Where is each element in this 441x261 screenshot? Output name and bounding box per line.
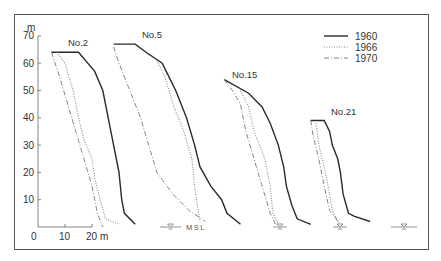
- msl-symbol-icon: [401, 224, 407, 229]
- profile-label-no15: No.15: [232, 69, 257, 80]
- profile-label-no2: No.2: [68, 37, 88, 48]
- y-tick-label: 50: [23, 85, 35, 96]
- y-tick-label: 20: [23, 167, 35, 178]
- series-1970: [224, 80, 275, 225]
- series-1970: [52, 52, 103, 227]
- series-1960: [224, 80, 310, 225]
- profile-no21: [311, 121, 370, 225]
- msl-symbol-icon: [168, 224, 174, 229]
- y-tick-label: 10: [23, 194, 35, 205]
- x-tick-label: 10: [59, 231, 71, 242]
- profile-no15: [224, 80, 310, 225]
- msl-label: MSL: [186, 223, 206, 232]
- y-tick-label: 40: [23, 112, 35, 123]
- msl-symbol-icon: [337, 224, 343, 229]
- series-1960: [311, 121, 370, 222]
- profile-label-no21: No.21: [331, 106, 356, 117]
- series-1966: [241, 91, 279, 225]
- profile-no5: [114, 44, 241, 224]
- series-1960: [52, 52, 136, 224]
- y-tick-label: 30: [23, 140, 35, 151]
- legend-label-1966: 1966: [355, 42, 378, 53]
- y-unit-label: m: [27, 22, 35, 33]
- msl-symbol-icon: [277, 224, 283, 229]
- beach-profile-chart: 10203040506070 m 01020 m No.2 No.5 No.15…: [0, 0, 441, 261]
- x-tick-label: 0: [31, 231, 37, 242]
- legend-label-1970: 1970: [355, 53, 378, 64]
- series-1966: [57, 52, 119, 224]
- profile-series: [52, 44, 371, 227]
- y-axis: 10203040506070 m: [23, 22, 41, 227]
- legend: 1960 1966 1970: [324, 31, 378, 64]
- profile-no2: [52, 52, 136, 227]
- profile-label-no5: No.5: [142, 29, 162, 40]
- x-tick-label: 20 m: [86, 231, 108, 242]
- series-1960: [114, 44, 241, 224]
- series-1966: [316, 123, 338, 221]
- x-axis: 01020 m: [31, 224, 108, 242]
- y-tick-label: 60: [23, 58, 35, 69]
- legend-label-1960: 1960: [355, 31, 378, 42]
